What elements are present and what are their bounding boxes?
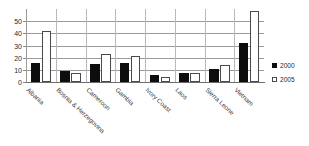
bar-2005 <box>250 11 260 82</box>
bar-2005 <box>220 65 230 82</box>
bar-2005 <box>161 77 171 82</box>
chart-legend: 2000 2005 <box>272 60 295 88</box>
y-axis-tick-label: 0 <box>18 79 22 86</box>
bar-2000 <box>90 64 100 82</box>
bar-group <box>86 9 116 82</box>
category-label: Vietnam <box>233 86 255 107</box>
category-label: Sierra Leone <box>204 86 236 116</box>
bar-group <box>56 9 86 82</box>
bar-2005 <box>190 73 200 82</box>
legend-item-2000: 2000 <box>272 60 295 71</box>
filled-square-icon <box>272 63 277 68</box>
plot-area: 01020304050 <box>26 9 264 82</box>
bar-group <box>115 9 145 82</box>
category-divider <box>145 9 146 82</box>
bar-2000 <box>179 73 189 82</box>
bar-2005 <box>131 56 141 82</box>
y-axis-tick-label: 20 <box>14 54 22 61</box>
bar-2000 <box>60 71 70 82</box>
bar-2000 <box>31 63 41 82</box>
category-divider <box>234 9 235 82</box>
y-axis-tick-label: 10 <box>14 66 22 73</box>
bar-2000 <box>120 63 130 82</box>
bar-group <box>175 9 205 82</box>
category-label: Cameroon <box>85 86 112 111</box>
y-axis-tick <box>23 82 26 83</box>
x-axis-line <box>26 82 265 83</box>
bar-group <box>26 9 56 82</box>
y-axis-tick-label: 50 <box>14 18 22 25</box>
legend-label-2005: 2005 <box>280 76 295 83</box>
category-divider <box>205 9 206 82</box>
category-label: Laos <box>174 86 189 101</box>
bar-2005 <box>71 73 81 82</box>
category-divider <box>115 9 116 82</box>
category-divider <box>56 9 57 82</box>
bar-2000 <box>239 43 249 82</box>
hollow-square-icon <box>272 77 277 82</box>
category-label: Ivory Coast <box>144 86 172 113</box>
bar-group <box>234 9 264 82</box>
category-divider <box>175 9 176 82</box>
bar-2000 <box>209 69 219 82</box>
bar-group <box>205 9 235 82</box>
bar-chart: 01020304050 AlbaniaBosnia & HerzegovinaC… <box>0 0 309 146</box>
bar-2005 <box>101 54 111 82</box>
y-axis-tick-label: 30 <box>14 42 22 49</box>
bar-group <box>145 9 175 82</box>
category-divider <box>86 9 87 82</box>
bar-2005 <box>42 31 52 82</box>
bar-2000 <box>150 75 160 82</box>
category-label: Gambia <box>114 86 135 106</box>
legend-label-2000: 2000 <box>280 62 295 69</box>
y-axis-tick-label: 40 <box>14 30 22 37</box>
category-label: Albania <box>25 86 45 106</box>
legend-item-2005: 2005 <box>272 74 295 85</box>
